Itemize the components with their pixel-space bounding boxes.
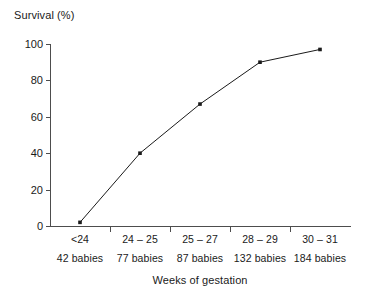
y-axis-tick-label: 60	[31, 111, 43, 123]
x-axis-category-label: 24 – 25	[110, 233, 170, 245]
series-survival	[50, 44, 350, 226]
y-axis-tick-mark	[46, 80, 50, 81]
x-axis-line	[50, 226, 351, 227]
y-axis-tick-mark	[46, 44, 50, 45]
y-axis-tick-mark	[46, 117, 50, 118]
x-axis-tick-mark	[110, 227, 111, 232]
x-axis-title: Weeks of gestation	[50, 274, 350, 286]
y-axis-tick-mark	[46, 226, 50, 227]
x-axis-group-size-label: 132 babies	[230, 252, 290, 264]
data-point-marker	[318, 48, 322, 52]
y-axis-tick-mark	[46, 153, 50, 154]
x-axis-category-label: 28 – 29	[230, 233, 290, 245]
y-axis-tick-label: 80	[31, 74, 43, 86]
x-axis-category-label: 25 – 27	[170, 233, 230, 245]
data-point-marker	[198, 102, 202, 106]
x-axis-category-label: <24	[50, 233, 110, 245]
y-axis-tick-label: 20	[31, 184, 43, 196]
x-axis-group-size-label: 77 babies	[110, 252, 170, 264]
plot-area	[50, 44, 350, 226]
x-axis-category-labels: <2424 – 2525 – 2728 – 2930 – 31	[50, 233, 350, 245]
x-axis-category-label: 30 – 31	[290, 233, 350, 245]
data-point-marker	[78, 221, 82, 225]
y-axis-tick-mark	[46, 190, 50, 191]
x-axis-tick-mark	[290, 227, 291, 232]
y-axis-tick-label: 100	[25, 38, 43, 50]
y-axis-tick-label: 0	[37, 220, 43, 232]
y-axis-tick-labels: 020406080100	[0, 0, 43, 300]
x-axis-tick-mark	[230, 227, 231, 232]
survival-line-chart: Survival (%) 020406080100 <2424 – 2525 –…	[0, 0, 366, 300]
data-line	[80, 49, 320, 222]
x-axis-tick-mark	[170, 227, 171, 232]
data-point-marker	[258, 60, 262, 64]
y-axis-tick-label: 40	[31, 147, 43, 159]
data-point-marker	[138, 151, 142, 155]
x-axis-group-size-label: 184 babies	[290, 252, 350, 264]
x-axis-group-size-label: 42 babies	[50, 252, 110, 264]
x-axis-group-size-labels: 42 babies77 babies87 babies132 babies184…	[50, 252, 350, 264]
x-axis-group-size-label: 87 babies	[170, 252, 230, 264]
